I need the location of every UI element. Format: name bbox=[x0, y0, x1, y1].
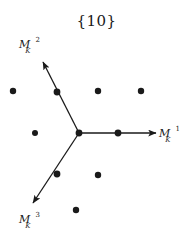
lattice-dot bbox=[73, 207, 79, 213]
axis-label-mk3-sub: K bbox=[25, 222, 30, 230]
lattice-dots-group bbox=[10, 88, 144, 213]
axis-label-mk1-sub: K bbox=[165, 136, 170, 144]
axis-label-mk2-sub: K bbox=[25, 47, 30, 55]
lattice-dot bbox=[95, 172, 101, 178]
axis-label-mk2: MK2 bbox=[19, 37, 40, 53]
lattice-dot bbox=[115, 130, 122, 137]
lattice-dot bbox=[138, 88, 144, 94]
axis-lines-group bbox=[33, 62, 156, 203]
lattice-dot bbox=[32, 130, 38, 136]
axis-label-mk3-sup: 3 bbox=[36, 211, 40, 219]
origin-vertex-dot bbox=[76, 130, 83, 137]
axis-label-mk1: MK1 bbox=[159, 126, 180, 142]
axis-arrow-m2 bbox=[43, 62, 79, 133]
origin-vertex-dot bbox=[76, 130, 83, 137]
lattice-dot bbox=[54, 89, 61, 96]
axis-label-mk1-sup: 1 bbox=[176, 125, 180, 133]
axis-label-mk2-sup: 2 bbox=[36, 36, 40, 44]
lattice-dot bbox=[10, 88, 16, 94]
lattice-dot bbox=[95, 88, 101, 94]
lattice-dot bbox=[54, 171, 61, 178]
figure-canvas: {10} MK1 MK2 MK3 bbox=[0, 0, 193, 240]
axis-arrow-m3 bbox=[33, 133, 79, 203]
axis-label-mk3: MK3 bbox=[19, 212, 40, 228]
tripod-diagram bbox=[0, 0, 193, 240]
